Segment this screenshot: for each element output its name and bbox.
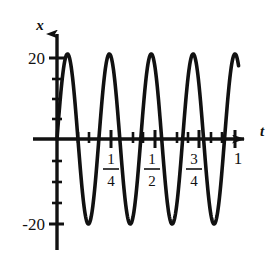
y-axis-label: x [35, 17, 44, 33]
x-tick-label-one-quarter: 1 4 [103, 151, 119, 189]
x-tick-label-three-quarters: 3 4 [186, 151, 202, 189]
svg-text:4: 4 [190, 173, 198, 189]
sinusoid-plot: x t 20 -20 1 4 1 2 3 4 1 [0, 0, 276, 264]
svg-text:2: 2 [148, 173, 156, 189]
x-axis-label: t [260, 123, 265, 139]
y-tick-label-20: 20 [28, 49, 45, 68]
svg-text:1: 1 [107, 151, 115, 167]
x-tick-label-one-half: 1 2 [144, 151, 160, 189]
svg-text:1: 1 [148, 151, 156, 167]
svg-text:3: 3 [190, 151, 198, 167]
figure-container: x t 20 -20 1 4 1 2 3 4 1 [0, 0, 276, 264]
svg-text:4: 4 [107, 173, 115, 189]
x-tick-label-one: 1 [234, 149, 243, 168]
y-tick-label-minus-20: -20 [22, 215, 45, 234]
